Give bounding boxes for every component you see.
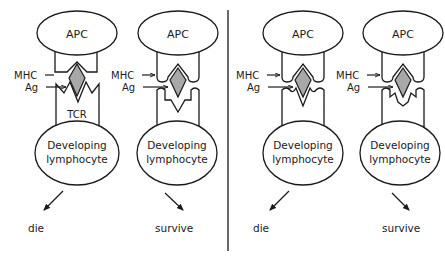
apc-label: APC [292,28,314,41]
outcome-label: survive [382,222,420,234]
outcome-arrow-icon [392,193,409,210]
lymphocyte-label-line1: Developing [273,139,332,151]
ag-label: Ag [247,82,260,93]
mhc-label: MHC [111,70,134,81]
lymphocyte-label-line2: lymphocyte [46,153,108,165]
apc-label: APC [392,28,414,41]
lymphocyte-label-line1: Developing [47,139,106,151]
outcome-label: die [253,222,269,234]
panel-1: APC TCR Developing lymphocyte MHC Ag die [14,11,119,234]
lymphocyte-label-line2: lymphocyte [369,153,431,165]
mhc-label: MHC [14,70,37,81]
mhc-label: MHC [336,70,359,81]
ag-label: Ag [25,82,38,93]
lymphocyte-label-line2: lymphocyte [272,153,334,165]
ag-label: Ag [347,82,360,93]
outcome-arrow-icon [165,193,183,210]
outcome-arrow-icon [270,191,289,210]
antigen [170,68,186,97]
panel-4: APC Developing lymphocyte MHC Ag survive [336,11,443,234]
outcome-arrow-icon [44,191,63,210]
apc-label: APC [167,28,189,41]
tcr-label: TCR [66,109,87,120]
lymphocyte-label-line1: Developing [147,139,206,151]
selection-diagram: APC TCR Developing lymphocyte MHC Ag die… [0,0,445,259]
mhc-label: MHC [236,70,259,81]
outcome-label: die [28,222,44,234]
ag-label: Ag [122,82,135,93]
lymphocyte-label-line1: Developing [370,139,429,151]
antigen [395,68,411,97]
apc-label: APC [66,28,88,41]
panel-3: APC Developing lymphocyte MHC Ag die [236,11,343,234]
panel-2: APC Developing lymphocyte MHC Ag survive [111,11,218,234]
lymphocyte-label-line2: lymphocyte [146,153,208,165]
outcome-label: survive [155,222,193,234]
